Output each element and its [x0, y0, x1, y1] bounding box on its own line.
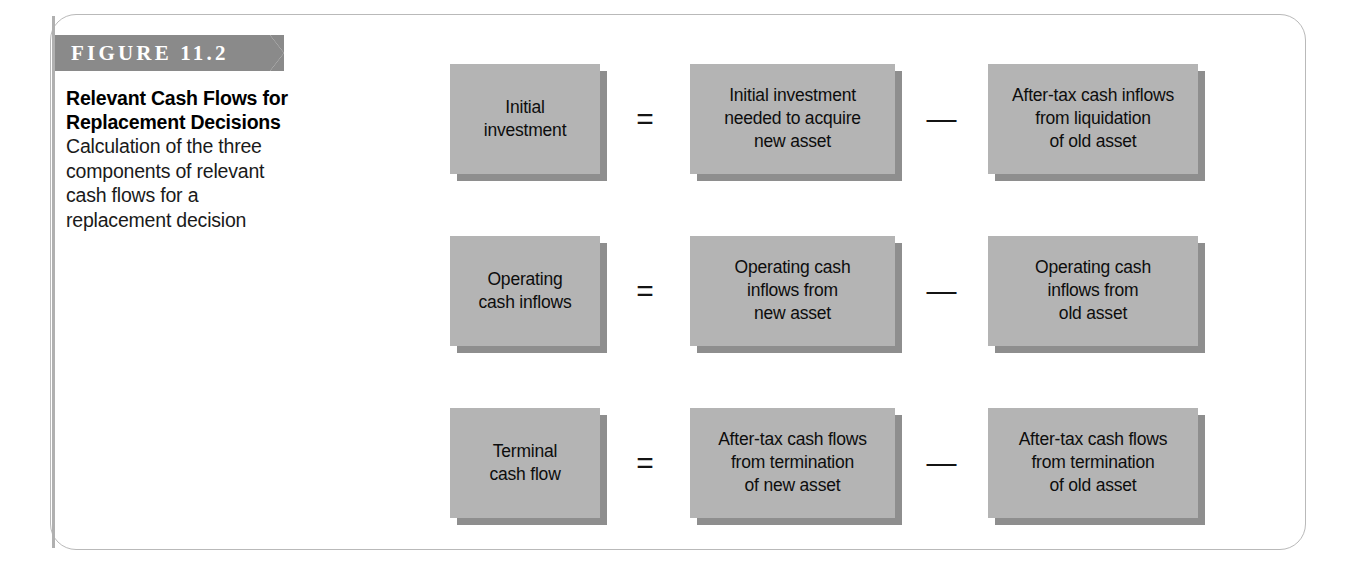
box-operating-cash-inflows: Operating cash inflows	[450, 236, 600, 346]
box-text: After-tax cash inflows from liquidation …	[1012, 84, 1174, 153]
box-text: After-tax cash flows from termination of…	[1019, 428, 1168, 497]
box-terminal-cash-flow: Terminal cash flow	[450, 408, 600, 518]
box-operating-inflows-new-asset: Operating cash inflows from new asset	[690, 236, 895, 346]
caption-body-line-2: components of relevant	[66, 159, 298, 184]
minus-symbol-row-2: —	[895, 276, 988, 306]
box-line-1: After-tax cash flows	[1019, 429, 1168, 449]
diagram-row-operating-cash-inflows: Operating cash inflows = Operating cash …	[436, 228, 1281, 353]
box-line-1: Initial	[505, 97, 544, 117]
box-after-tax-flows-termination-old: After-tax cash flows from termination of…	[988, 408, 1198, 518]
box-line-3: old asset	[1059, 303, 1127, 323]
box-line-1: Operating cash	[735, 257, 851, 277]
box-text: Initial investment needed to acquire new…	[724, 84, 861, 153]
box-after-tax-flows-termination-new: After-tax cash flows from termination of…	[690, 408, 895, 518]
box-text: After-tax cash flows from termination of…	[718, 428, 867, 497]
box-line-2: from termination	[731, 452, 854, 472]
equals-symbol-row-3: =	[600, 448, 690, 478]
caption-title-line-2: Replacement Decisions	[66, 110, 298, 134]
box-initial-investment: Initial investment	[450, 64, 600, 174]
box-operating-inflows-old-asset: Operating cash inflows from old asset	[988, 236, 1198, 346]
minus-symbol-row-3: —	[895, 448, 988, 478]
box-text: Operating cash inflows from new asset	[735, 256, 851, 325]
figure-number-label: FIGURE 11.2	[55, 41, 229, 66]
box-line-2: cash inflows	[479, 292, 572, 312]
minus-symbol-row-1: —	[895, 104, 988, 134]
diagram-row-initial-investment: Initial investment = Initial investment …	[436, 56, 1281, 181]
box-line-1: After-tax cash inflows	[1012, 85, 1174, 105]
box-text: Initial investment	[484, 96, 567, 142]
equals-symbol-row-2: =	[600, 276, 690, 306]
box-line-3: new asset	[754, 303, 831, 323]
box-line-1: Operating	[487, 269, 562, 289]
box-line-3: of old asset	[1049, 475, 1136, 495]
box-line-2: inflows from	[747, 280, 838, 300]
caption-title-line-1: Relevant Cash Flows for	[66, 86, 298, 110]
box-line-2: from termination	[1031, 452, 1154, 472]
box-line-1: After-tax cash flows	[718, 429, 867, 449]
figure-number-banner: FIGURE 11.2	[55, 35, 270, 71]
box-line-2: needed to acquire	[724, 108, 861, 128]
cash-flow-diagram: Initial investment = Initial investment …	[436, 40, 1281, 540]
box-text: Terminal cash flow	[489, 440, 560, 486]
box-line-1: Initial investment	[729, 85, 856, 105]
equals-symbol-row-1: =	[600, 104, 690, 134]
caption-body-line-1: Calculation of the three	[66, 134, 298, 159]
figure-caption: Relevant Cash Flows for Replacement Deci…	[66, 86, 298, 232]
box-line-2: from liquidation	[1035, 108, 1150, 128]
box-text: Operating cash inflows from old asset	[1035, 256, 1151, 325]
box-line-1: Operating cash	[1035, 257, 1151, 277]
diagram-row-terminal-cash-flow: Terminal cash flow = After-tax cash flow…	[436, 400, 1281, 525]
caption-body-line-3: cash flows for a	[66, 183, 298, 208]
box-line-3: of old asset	[1049, 131, 1136, 151]
caption-body-line-4: replacement decision	[66, 208, 298, 233]
box-line-1: Terminal	[493, 441, 558, 461]
box-text: Operating cash inflows	[479, 268, 572, 314]
box-after-tax-inflows-liquidation: After-tax cash inflows from liquidation …	[988, 64, 1198, 174]
box-line-2: cash flow	[489, 464, 560, 484]
box-line-2: investment	[484, 120, 567, 140]
banner-chevron-icon	[270, 35, 284, 71]
box-initial-investment-new-asset: Initial investment needed to acquire new…	[690, 64, 895, 174]
box-line-2: inflows from	[1048, 280, 1139, 300]
box-line-3: of new asset	[745, 475, 841, 495]
box-line-3: new asset	[754, 131, 831, 151]
